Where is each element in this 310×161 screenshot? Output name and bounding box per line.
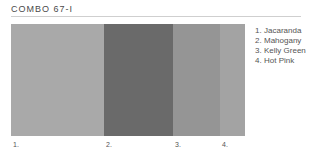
swatch-mahogany bbox=[104, 24, 173, 136]
legend-number: 4. bbox=[255, 56, 264, 65]
legend-label: Mahogany bbox=[264, 36, 308, 45]
legend-label: Kelly Green bbox=[264, 46, 308, 55]
swatch-hot-pink bbox=[220, 24, 245, 136]
combo-title: COMBO 67-I bbox=[11, 4, 73, 14]
legend-number: 2. bbox=[255, 36, 264, 45]
swatch-kelly-green bbox=[173, 24, 220, 136]
legend-label: Hot Pink bbox=[264, 56, 308, 65]
color-swatch-strip bbox=[11, 24, 245, 136]
swatch-jacaranda bbox=[11, 24, 104, 136]
swatch-number-2: 2. bbox=[106, 141, 112, 148]
legend-item: 4. Hot Pink bbox=[255, 56, 308, 65]
legend-label: Jacaranda bbox=[264, 26, 308, 35]
swatch-number-1: 1. bbox=[13, 141, 19, 148]
swatch-number-4: 4. bbox=[222, 141, 228, 148]
swatch-number-row: 1. 2. 3. 4. bbox=[11, 141, 251, 153]
legend-number: 3. bbox=[255, 46, 264, 55]
legend-item: 1. Jacaranda bbox=[255, 26, 308, 35]
legend-item: 2. Mahogany bbox=[255, 36, 308, 45]
color-legend: 1. Jacaranda 2. Mahogany 3. Kelly Green … bbox=[255, 26, 308, 66]
title-divider bbox=[11, 16, 301, 17]
legend-item: 3. Kelly Green bbox=[255, 46, 308, 55]
swatch-number-3: 3. bbox=[175, 141, 181, 148]
legend-number: 1. bbox=[255, 26, 264, 35]
